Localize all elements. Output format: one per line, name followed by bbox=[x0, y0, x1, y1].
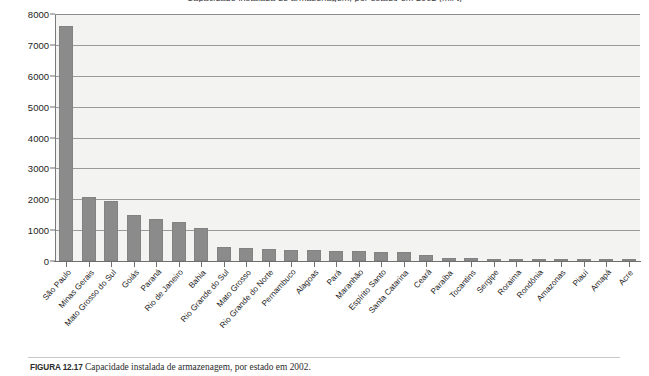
x-tick-label: Amapá bbox=[589, 268, 613, 293]
y-tick-label: 6000 bbox=[5, 70, 49, 81]
y-tick-label: 1000 bbox=[5, 225, 49, 236]
x-tick-mark bbox=[359, 261, 360, 267]
x-tick-mark bbox=[381, 261, 382, 267]
x-tick-mark bbox=[314, 261, 315, 267]
bar bbox=[262, 249, 276, 261]
bar bbox=[127, 215, 141, 261]
x-tick-mark bbox=[269, 261, 270, 267]
caption-label: FIGURA 12.17 bbox=[30, 363, 83, 372]
bar bbox=[239, 248, 253, 261]
bar bbox=[329, 251, 343, 261]
y-tick-label: 4000 bbox=[5, 132, 49, 143]
x-tick-mark bbox=[471, 261, 472, 267]
x-tick-mark bbox=[201, 261, 202, 267]
bar bbox=[194, 228, 208, 261]
bar bbox=[104, 201, 118, 261]
x-tick-mark bbox=[449, 261, 450, 267]
x-tick-mark bbox=[584, 261, 585, 267]
bar bbox=[374, 252, 388, 261]
x-tick-mark bbox=[516, 261, 517, 267]
x-tick-mark bbox=[561, 261, 562, 267]
x-tick-mark bbox=[291, 261, 292, 267]
x-axis-baseline bbox=[54, 261, 641, 262]
x-tick-mark bbox=[156, 261, 157, 267]
figure-container: Capacidade instalada de armazenagem, por… bbox=[0, 0, 649, 376]
x-tick-mark bbox=[134, 261, 135, 267]
x-tick-mark bbox=[494, 261, 495, 267]
bar bbox=[397, 252, 411, 261]
x-tick-label: Bahia bbox=[187, 268, 208, 290]
y-tick-label: 7000 bbox=[5, 39, 49, 50]
y-tick-label: 8000 bbox=[5, 9, 49, 20]
x-tick-mark bbox=[606, 261, 607, 267]
bar bbox=[217, 247, 231, 261]
y-tick-label: 3000 bbox=[5, 163, 49, 174]
x-tick-mark bbox=[246, 261, 247, 267]
figure-caption: FIGURA 12.17 Capacidade instalada de arm… bbox=[30, 362, 630, 374]
x-tick-label: Pará bbox=[325, 268, 343, 287]
y-tick-label: 0 bbox=[5, 256, 49, 267]
bar bbox=[59, 26, 73, 261]
x-tick-mark bbox=[404, 261, 405, 267]
caption-text: Capacidade instalada de armazenagem, por… bbox=[85, 362, 311, 372]
bar bbox=[284, 250, 298, 261]
y-tick-label: 5000 bbox=[5, 101, 49, 112]
bar bbox=[307, 250, 321, 261]
x-tick-mark bbox=[224, 261, 225, 267]
x-tick-mark bbox=[89, 261, 90, 267]
x-tick-label: Acre bbox=[617, 268, 635, 287]
x-tick-mark bbox=[66, 261, 67, 267]
bar bbox=[82, 197, 96, 261]
x-tick-mark bbox=[629, 261, 630, 267]
x-tick-mark bbox=[179, 261, 180, 267]
chart-title: Capacidade instalada de armazenagem, por… bbox=[0, 0, 649, 2]
x-tick-label: Goiás bbox=[120, 268, 141, 290]
x-tick-label: Piauí bbox=[571, 268, 590, 288]
bar-series bbox=[55, 14, 640, 261]
x-tick-mark bbox=[111, 261, 112, 267]
bar bbox=[172, 222, 186, 261]
bar bbox=[149, 219, 163, 261]
x-tick-mark bbox=[539, 261, 540, 267]
caption-divider bbox=[28, 357, 620, 358]
y-tick-label: 2000 bbox=[5, 194, 49, 205]
x-tick-mark bbox=[336, 261, 337, 267]
bar bbox=[352, 251, 366, 261]
